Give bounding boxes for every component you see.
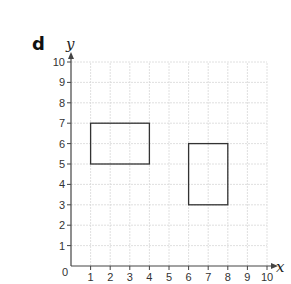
x-tick-label: 3 bbox=[127, 271, 133, 283]
y-tick-label: 5 bbox=[59, 158, 65, 170]
y-tick-label: 9 bbox=[59, 76, 65, 88]
x-tick-label: 7 bbox=[205, 271, 211, 283]
x-tick-label: 0 bbox=[62, 266, 68, 278]
y-axis-label: y bbox=[65, 35, 75, 53]
x-tick-label: 10 bbox=[261, 271, 273, 283]
x-tick-label: 1 bbox=[88, 271, 94, 283]
y-axis-arrow-icon bbox=[68, 52, 74, 59]
y-tick-label: 4 bbox=[59, 178, 65, 190]
axes bbox=[67, 52, 278, 270]
coordinate-grid-figure: d 01234567891012345678910 x y bbox=[0, 0, 291, 284]
x-tick-label: 6 bbox=[186, 271, 192, 283]
y-tick-label: 6 bbox=[59, 138, 65, 150]
x-tick-label: 2 bbox=[107, 271, 113, 283]
y-tick-label: 3 bbox=[59, 199, 65, 211]
y-tick-label: 8 bbox=[59, 97, 65, 109]
y-tick-label: 2 bbox=[59, 219, 65, 231]
tick-labels: 01234567891012345678910 bbox=[53, 56, 273, 283]
x-tick-label: 8 bbox=[225, 271, 231, 283]
part-label: d bbox=[32, 33, 45, 54]
x-tick-label: 4 bbox=[146, 271, 152, 283]
x-axis-label: x bbox=[276, 258, 285, 276]
y-tick-label: 10 bbox=[53, 56, 65, 68]
x-tick-label: 5 bbox=[166, 271, 172, 283]
y-tick-label: 7 bbox=[59, 117, 65, 129]
y-tick-label: 1 bbox=[59, 240, 65, 252]
x-tick-label: 9 bbox=[244, 271, 250, 283]
